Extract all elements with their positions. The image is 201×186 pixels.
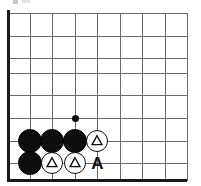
white-stone-triangle-marked (41, 152, 63, 174)
triangle-icon (42, 153, 62, 173)
board-edge-bottom (7, 179, 187, 182)
black-stone (18, 151, 42, 175)
black-stone (40, 129, 64, 153)
white-stone-triangle-marked (64, 152, 86, 174)
triangle-icon (87, 131, 107, 151)
grid-line-vertical (120, 13, 121, 181)
grid-line-vertical (187, 13, 188, 181)
black-stone (63, 129, 87, 153)
point-label-a: A (88, 155, 107, 173)
grid-line-vertical (165, 13, 166, 181)
triangle-icon (65, 153, 85, 173)
board-edge-left (7, 10, 10, 182)
white-stone-triangle-marked (86, 130, 108, 152)
go-board-diagram: A (0, 0, 201, 186)
scan-artifact-speck (13, 0, 18, 4)
scan-artifact-speck (22, 0, 30, 3)
black-stone (18, 129, 42, 153)
grid-line-vertical (142, 13, 143, 181)
move-dot-marker (72, 115, 79, 122)
